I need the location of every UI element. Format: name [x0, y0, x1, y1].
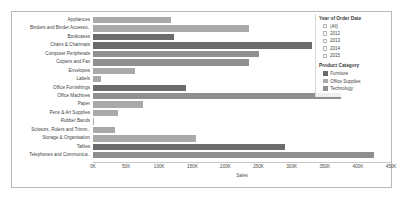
- category-label: Labels: [12, 75, 93, 83]
- bar-row: [93, 109, 391, 117]
- bar-row: [93, 134, 391, 142]
- category-label: Copiers and Fax: [12, 58, 93, 66]
- color-swatch-icon: [323, 86, 328, 91]
- axis-tick: 400K: [353, 164, 364, 169]
- category-label: Office Machines: [12, 92, 93, 100]
- category-label: Tables: [12, 143, 93, 151]
- bar[interactable]: [93, 118, 94, 124]
- checkbox-icon[interactable]: [323, 39, 327, 43]
- category-label: Computer Peripherals: [12, 50, 93, 58]
- bar-row: [93, 143, 391, 151]
- year-filter-option[interactable]: 2015: [319, 52, 386, 59]
- bar[interactable]: [93, 85, 186, 91]
- year-filter-option[interactable]: 2014: [319, 45, 386, 52]
- category-label: Chairs & Chairmats: [12, 41, 93, 49]
- bar[interactable]: [93, 25, 249, 31]
- category-label: Scissors, Rulers and Trimm..: [12, 126, 93, 134]
- year-filter-label: 2012: [330, 31, 340, 36]
- bar[interactable]: [93, 93, 341, 99]
- bar[interactable]: [93, 17, 171, 23]
- bar[interactable]: [93, 42, 312, 48]
- bar[interactable]: [93, 127, 115, 133]
- year-filter-option[interactable]: 2013: [319, 37, 386, 44]
- axis-tick: 450K: [386, 164, 397, 169]
- bar[interactable]: [93, 135, 196, 141]
- year-filter-block: Year of Order Date (All)2012201320142015: [319, 16, 386, 59]
- chart-container: AppliancesBinders and Binder Accesso..Bo…: [11, 11, 392, 188]
- category-axis: AppliancesBinders and Binder Accesso..Bo…: [12, 16, 93, 159]
- category-legend-item[interactable]: Technology: [319, 85, 386, 92]
- axis-tick: 250K: [253, 164, 264, 169]
- category-legend-item[interactable]: Furniture: [319, 70, 386, 77]
- year-filter-label: 2013: [330, 38, 340, 43]
- category-legend-label: Technology: [330, 86, 353, 91]
- product-category-title: Product Category: [319, 63, 386, 68]
- category-label: Binders and Binder Accesso..: [12, 24, 93, 32]
- axis-tick: 0K: [90, 164, 96, 169]
- axis-tick: 100K: [154, 164, 165, 169]
- year-filter-option[interactable]: 2012: [319, 30, 386, 37]
- category-label: Office Furnishings: [12, 84, 93, 92]
- category-label: Envelopes: [12, 67, 93, 75]
- category-label: Paper: [12, 100, 93, 108]
- category-label: Bookcases: [12, 33, 93, 41]
- category-legend-label: Office Supplies: [330, 79, 360, 84]
- bar-row: [93, 117, 391, 125]
- legend-panel: Year of Order Date (All)2012201320142015…: [315, 14, 389, 97]
- checkbox-icon[interactable]: [323, 46, 327, 50]
- axis-title-sales: Sales: [93, 173, 391, 178]
- category-label: Telephones and Communica..: [12, 151, 93, 159]
- year-filter-option[interactable]: (All): [319, 23, 386, 30]
- checkbox-icon[interactable]: [323, 24, 327, 28]
- year-filter-label: 2015: [330, 53, 340, 58]
- bar-row: [93, 151, 391, 159]
- axis-tick: 350K: [319, 164, 330, 169]
- year-filter-label: 2014: [330, 46, 340, 51]
- category-label: Storage & Organisation: [12, 134, 93, 142]
- checkbox-icon[interactable]: [323, 54, 327, 58]
- category-legend-label: Furniture: [330, 71, 348, 76]
- bar[interactable]: [93, 110, 118, 116]
- bar[interactable]: [93, 76, 101, 82]
- axis-tick: 200K: [220, 164, 231, 169]
- bar-row: [93, 100, 391, 108]
- checkbox-icon[interactable]: [323, 31, 327, 35]
- axis-tick: 300K: [286, 164, 297, 169]
- year-filter-label: (All): [330, 24, 338, 29]
- bar[interactable]: [93, 144, 285, 150]
- bar[interactable]: [93, 68, 135, 74]
- category-label: Rubber Bands: [12, 117, 93, 125]
- value-axis: 0K50K100K150K200K250K300K350K400K450K Sa…: [93, 162, 391, 184]
- bar[interactable]: [93, 152, 374, 158]
- bar[interactable]: [93, 59, 249, 65]
- bar[interactable]: [93, 51, 259, 57]
- axis-tick: 150K: [187, 164, 198, 169]
- category-label: Pens & Art Supplies: [12, 109, 93, 117]
- year-filter-title: Year of Order Date: [319, 16, 386, 21]
- bar[interactable]: [93, 101, 143, 107]
- bar-row: [93, 126, 391, 134]
- color-swatch-icon: [323, 71, 328, 76]
- bar[interactable]: [93, 34, 174, 40]
- axis-line: [93, 162, 391, 163]
- category-label: Appliances: [12, 16, 93, 24]
- color-swatch-icon: [323, 79, 328, 84]
- product-category-block: Product Category FurnitureOffice Supplie…: [319, 63, 386, 92]
- category-legend-item[interactable]: Office Supplies: [319, 77, 386, 84]
- axis-tick: 50K: [122, 164, 130, 169]
